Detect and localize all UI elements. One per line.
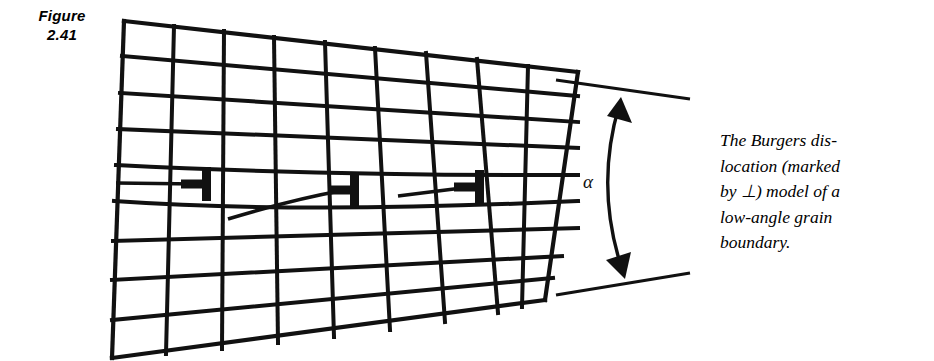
figure-caption-text: The Burgers dis- location (marked by ⊥) … bbox=[720, 130, 840, 252]
angle-arc bbox=[608, 106, 622, 269]
lattice-row-bottom bbox=[112, 300, 545, 358]
lattice-row-6 bbox=[113, 228, 578, 241]
dislocation-symbol-1 bbox=[181, 167, 211, 201]
dislocation-2-bar bbox=[350, 173, 359, 207]
dislocation-3-stem bbox=[454, 183, 476, 192]
angle-arrowhead-top bbox=[607, 97, 632, 123]
lattice-col-2 bbox=[222, 31, 224, 349]
lattice-col-right-edge bbox=[545, 72, 578, 300]
half-plane-line-2 bbox=[228, 190, 345, 219]
dislocation-2-stem bbox=[329, 186, 351, 195]
angle-arrowhead-bottom bbox=[606, 252, 631, 279]
lattice-row-4 bbox=[116, 165, 578, 175]
lattice-row-1 bbox=[122, 56, 578, 96]
dislocation-1-stem bbox=[181, 180, 203, 189]
angle-annotation: α bbox=[556, 80, 690, 295]
lattice-col-left-edge bbox=[112, 21, 124, 358]
lattice-row-top bbox=[124, 21, 578, 72]
lattice-row-3 bbox=[118, 129, 578, 148]
figure-container: Figure 2.41 bbox=[0, 0, 934, 361]
angle-alpha-label: α bbox=[583, 171, 594, 192]
lattice-row-2 bbox=[120, 93, 578, 122]
dislocation-3-bar bbox=[475, 170, 484, 204]
lattice-col-1 bbox=[166, 26, 174, 354]
lattice-col-6 bbox=[426, 53, 445, 322]
lattice-row-5 bbox=[114, 201, 578, 208]
dislocation-symbol-2 bbox=[329, 173, 359, 207]
lattice-col-8 bbox=[522, 66, 528, 307]
figure-caption: The Burgers dis- location (marked by ⊥) … bbox=[720, 128, 920, 256]
lattice-col-3 bbox=[274, 37, 278, 343]
dislocation-1-bar bbox=[202, 167, 211, 201]
lattice-col-5 bbox=[375, 48, 390, 330]
